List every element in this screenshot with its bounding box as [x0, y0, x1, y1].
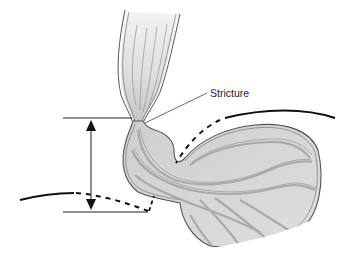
stomach-and-hernia: [123, 121, 349, 254]
esophagus: [118, 10, 180, 121]
stricture-diagram: [0, 0, 349, 254]
stricture-label: Stricture: [210, 87, 249, 99]
diagram-canvas: Stricture: [0, 0, 349, 254]
